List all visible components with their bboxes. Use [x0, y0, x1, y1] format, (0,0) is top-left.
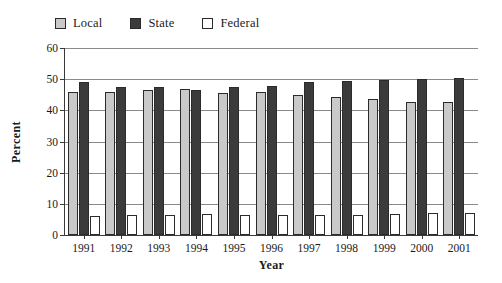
bar-group-2000	[405, 48, 439, 235]
x-tick-mark-2000	[422, 235, 423, 239]
legend-item-local: Local	[55, 17, 102, 30]
bar-group-1992	[104, 48, 138, 235]
x-tick-mark-1998	[347, 235, 348, 239]
bar-federal-1998	[353, 215, 363, 235]
bar-group-1996	[255, 48, 289, 235]
bar-federal-1992	[127, 215, 137, 235]
bar-federal-1994	[202, 214, 212, 235]
legend-swatch-state-icon	[130, 18, 141, 29]
bar-state-1992	[116, 87, 126, 235]
legend-item-state: State	[130, 17, 174, 30]
bar-local-1993	[143, 90, 153, 235]
bar-federal-2001	[465, 213, 475, 235]
y-tick-label-50: 50	[47, 73, 59, 85]
chart-legend: Local State Federal	[55, 14, 287, 32]
bar-local-1991	[68, 92, 78, 235]
y-axis-title-text: Percent	[9, 121, 24, 163]
y-tick-mark-30	[60, 142, 65, 143]
bar-group-1997	[292, 48, 326, 235]
y-tick-label-40: 40	[47, 104, 59, 116]
bar-group-2001	[442, 48, 476, 235]
bar-state-1994	[191, 90, 201, 235]
bar-federal-1991	[90, 216, 100, 235]
y-tick-label-30: 30	[47, 136, 59, 148]
bar-local-1999	[368, 99, 378, 236]
bar-group-1995	[217, 48, 251, 235]
legend-label-state: State	[148, 17, 174, 30]
bar-group-1998	[330, 48, 364, 235]
bar-federal-1999	[390, 214, 400, 235]
x-tick-label-1993: 1993	[139, 242, 179, 255]
legend-item-federal: Federal	[202, 17, 259, 30]
bar-local-1996	[256, 92, 266, 235]
bar-group-1999	[367, 48, 401, 235]
bar-federal-1995	[240, 215, 250, 235]
legend-label-local: Local	[73, 17, 102, 30]
x-axis-title: Year	[65, 258, 478, 273]
y-axis-title: Percent	[8, 48, 24, 235]
bar-state-1999	[379, 80, 389, 235]
x-tick-mark-1997	[309, 235, 310, 239]
y-tick-mark-60	[60, 48, 65, 49]
bar-state-1998	[342, 81, 352, 235]
x-tick-label-1995: 1995	[214, 242, 254, 255]
y-tick-mark-10	[60, 204, 65, 205]
bar-local-1992	[105, 92, 115, 235]
y-tick-mark-50	[60, 79, 65, 80]
y-tick-mark-0	[60, 235, 65, 236]
bar-federal-1993	[165, 215, 175, 235]
bar-group-1994	[179, 48, 213, 235]
x-tick-label-2000: 2000	[402, 242, 442, 255]
legend-swatch-local-icon	[55, 18, 66, 29]
x-tick-label-1992: 1992	[101, 242, 141, 255]
bar-local-2001	[443, 102, 453, 235]
bar-state-1995	[229, 87, 239, 235]
x-tick-mark-1993	[159, 235, 160, 239]
bar-state-1997	[304, 82, 314, 235]
bar-state-2000	[417, 79, 427, 235]
bar-local-1994	[180, 89, 190, 235]
bar-local-2000	[406, 102, 416, 235]
x-tick-label-1994: 1994	[176, 242, 216, 255]
y-tick-label-10: 10	[47, 198, 59, 210]
plot-area: 0102030405060 19911992199319941995199619…	[65, 48, 478, 235]
x-tick-mark-1995	[234, 235, 235, 239]
y-tick-mark-20	[60, 173, 65, 174]
x-tick-mark-1999	[384, 235, 385, 239]
x-tick-mark-1992	[121, 235, 122, 239]
bar-federal-1996	[278, 215, 288, 235]
bar-group-1993	[142, 48, 176, 235]
bar-state-1993	[154, 87, 164, 235]
x-tick-label-1998: 1998	[327, 242, 367, 255]
x-tick-mark-1991	[84, 235, 85, 239]
bar-group-1991	[67, 48, 101, 235]
y-tick-label-60: 60	[47, 42, 59, 54]
x-tick-label-1996: 1996	[252, 242, 292, 255]
x-tick-label-2001: 2001	[439, 242, 479, 255]
bar-federal-1997	[315, 215, 325, 235]
bar-chart-figure: Local State Federal Percent 010203040506…	[0, 0, 502, 283]
x-tick-mark-2001	[459, 235, 460, 239]
bar-federal-2000	[428, 213, 438, 235]
legend-swatch-federal-icon	[202, 18, 213, 29]
bar-state-2001	[454, 78, 464, 235]
x-tick-label-1999: 1999	[364, 242, 404, 255]
bar-state-1991	[79, 82, 89, 235]
x-tick-mark-1994	[196, 235, 197, 239]
y-tick-mark-40	[60, 110, 65, 111]
y-tick-label-0: 0	[52, 229, 58, 241]
bar-local-1998	[331, 97, 341, 235]
x-tick-label-1997: 1997	[289, 242, 329, 255]
x-tick-label-1991: 1991	[64, 242, 104, 255]
x-tick-mark-1996	[272, 235, 273, 239]
legend-label-federal: Federal	[220, 17, 259, 30]
bar-local-1995	[218, 93, 228, 235]
bar-local-1997	[293, 95, 303, 235]
bar-state-1996	[267, 86, 277, 235]
y-tick-label-20: 20	[47, 167, 59, 179]
